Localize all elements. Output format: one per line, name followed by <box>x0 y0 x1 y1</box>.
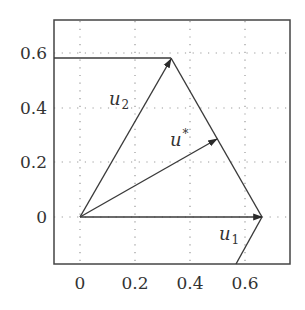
x-tick-0.2: 0.2 <box>121 273 148 293</box>
x-tick-0: 0 <box>75 273 86 293</box>
vector-u2 <box>80 59 171 217</box>
label-u1: u1 <box>219 223 239 247</box>
label-u-star: u* <box>170 127 189 150</box>
y-tick-0.2: 0.2 <box>20 152 47 172</box>
vector-diagram: u2 u* u1 0.6 0.4 0.2 0 0 0.2 0.4 0.6 <box>0 0 305 310</box>
y-tick-0: 0 <box>36 207 47 227</box>
y-tick-0.6: 0.6 <box>20 43 47 63</box>
vector-u-star <box>80 139 217 217</box>
x-tick-0.6: 0.6 <box>231 273 258 293</box>
x-tick-0.4: 0.4 <box>176 273 203 293</box>
y-tick-0.4: 0.4 <box>20 98 47 118</box>
label-u2: u2 <box>109 88 129 112</box>
segment-below-u1 <box>236 217 262 264</box>
